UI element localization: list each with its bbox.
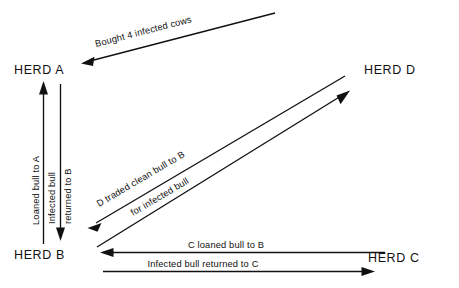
- edge-bought-cows: Bought 4 infected cows: [81, 13, 275, 66]
- infected-bull-returned-to-c-arrowhead-icon: [362, 267, 376, 276]
- edge-label-c-loaned-bull-to-b: C loaned bull to B: [188, 240, 264, 250]
- edge-loaned-bull-to-a: Loaned bull to A: [31, 81, 48, 244]
- edge-label-bought-cows: Bought 4 infected cows: [94, 14, 193, 49]
- d-traded-clean-bull-line: [96, 76, 345, 223]
- infected-bull-returned-to-b-arrowhead-icon: [56, 228, 65, 242]
- b-infected-bull-to-d-arrowhead-icon: [337, 91, 351, 105]
- bought-cows-arrowhead-icon: [81, 57, 95, 66]
- loaned-bull-to-a-arrowhead-icon: [39, 81, 48, 95]
- diagram-canvas: Bought 4 infected cows Loaned bull to A …: [0, 0, 459, 288]
- edge-label-loaned-bull-to-a: Loaned bull to A: [31, 155, 41, 225]
- herd-transmission-diagram: Bought 4 infected cows Loaned bull to A …: [0, 0, 459, 288]
- edge-d-traded-clean-bull: D traded clean bull to B: [88, 76, 346, 232]
- d-traded-clean-bull-arrowhead-icon: [88, 223, 102, 232]
- node-label-herd-b: HERD B: [14, 248, 65, 262]
- b-infected-bull-to-d-line: [97, 96, 341, 247]
- node-label-herd-d: HERD D: [364, 63, 416, 77]
- c-loaned-bull-to-b-arrowhead-icon: [100, 248, 114, 257]
- edge-label-infected-bull-returned-to-c: Infected bull returned to C: [147, 259, 258, 269]
- edge-infected-bull-returned-to-c: Infected bull returned to C: [103, 259, 375, 276]
- edge-infected-bull-returned-to-b: Infected bull returned to B: [47, 84, 73, 241]
- node-label-herd-c: HERD C: [368, 251, 420, 265]
- edge-label-infected-bull-line1: Infected bull: [47, 172, 57, 224]
- edge-label-infected-bull-line2: returned to B: [63, 168, 73, 224]
- edge-c-loaned-bull-to-b: C loaned bull to B: [100, 240, 385, 257]
- edge-b-infected-bull-to-d: for infected bull: [97, 91, 350, 248]
- node-label-herd-a: HERD A: [14, 63, 64, 77]
